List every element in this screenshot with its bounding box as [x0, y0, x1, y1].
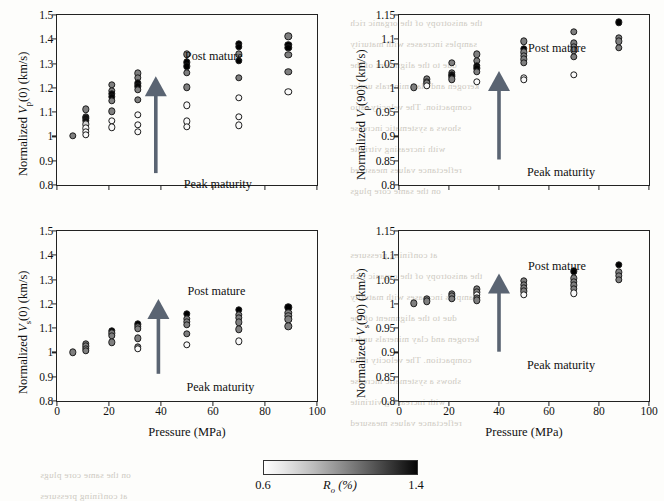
- plot-area-bottom-left: 0.80.911.11.21.31.41.5020406080100Post m…: [56, 230, 318, 402]
- y-axis-label-bottom-left: Normalized Vs(0) (km/s): [16, 271, 33, 394]
- x-tick-mark: [316, 185, 317, 190]
- x-tick-mark: [548, 185, 549, 190]
- x-axis-label-bottom-right: Pressure (MPa): [485, 425, 562, 440]
- maturity-arrow-icon: [399, 15, 649, 185]
- annotation-peak-maturity: Peak maturity: [527, 358, 595, 373]
- plot-area-top-right: 0.80.850.90.9511.051.11.15Post maturePea…: [398, 14, 650, 186]
- panel-bottom-left: 0.80.911.11.21.31.41.5020406080100Post m…: [0, 222, 332, 444]
- x-tick-label: 0: [396, 401, 402, 417]
- y-axis-label-top-right: Normalized Vp(90) (km/s): [354, 49, 371, 180]
- x-tick-mark: [448, 185, 449, 190]
- plot-area-top-left: 0.80.911.11.21.31.41.5Post maturePeak ma…: [56, 14, 318, 186]
- x-tick-label: 20: [103, 401, 115, 417]
- annotation-peak-maturity: Peak maturity: [186, 380, 254, 395]
- x-tick-label: 100: [308, 401, 325, 417]
- bleed-text-line: on the same core plugs: [40, 470, 131, 480]
- panel-top-left: 0.80.911.11.21.31.41.5Post maturePeak ma…: [0, 0, 332, 222]
- x-tick-mark: [648, 185, 649, 190]
- x-tick-mark: [56, 185, 57, 190]
- maturity-arrow-icon: [399, 231, 649, 401]
- panel-bottom-right: 0.80.850.90.9511.051.11.15020406080100Po…: [332, 222, 664, 444]
- maturity-arrow-icon: [57, 15, 317, 185]
- y-axis-label-top-left: Normalized Vp(0) (km/s): [16, 52, 33, 176]
- x-tick-mark: [498, 185, 499, 190]
- annotation-peak-maturity: Peak maturity: [184, 177, 252, 192]
- x-tick-label: 60: [207, 401, 219, 417]
- colorbar-legend: 0.6 Ro (%) 1.4: [240, 456, 440, 498]
- x-tick-mark: [598, 185, 599, 190]
- colorbar-gradient: [263, 460, 418, 475]
- plot-area-bottom-right: 0.80.850.90.9511.051.11.15020406080100Po…: [398, 230, 650, 402]
- x-tick-mark: [264, 185, 265, 190]
- x-tick-label: 20: [443, 401, 455, 417]
- annotation-peak-maturity: Peak maturity: [527, 165, 595, 180]
- x-tick-label: 80: [259, 401, 271, 417]
- x-tick-mark: [398, 185, 399, 190]
- annotation-post-mature: Post mature: [185, 49, 243, 64]
- annotation-post-mature: Post mature: [187, 284, 245, 299]
- colorbar-min-label: 0.6: [255, 478, 271, 493]
- x-axis-label-bottom-left: Pressure (MPa): [148, 425, 225, 440]
- x-tick-label: 100: [640, 401, 657, 417]
- bleed-text-line: at confining pressures: [40, 491, 127, 501]
- maturity-arrow-icon: [57, 231, 317, 401]
- annotation-post-mature: Post mature: [528, 259, 586, 274]
- x-tick-mark: [108, 185, 109, 190]
- x-tick-label: 0: [54, 401, 60, 417]
- x-tick-mark: [160, 185, 161, 190]
- colorbar-max-label: 1.4: [408, 478, 424, 493]
- x-tick-label: 80: [593, 401, 605, 417]
- y-axis-label-bottom-right: Normalized Vs(90) (km/s): [354, 268, 371, 398]
- x-tick-label: 40: [155, 401, 167, 417]
- x-tick-label: 40: [493, 401, 505, 417]
- panel-top-right: 0.80.850.90.9511.051.11.15Post maturePea…: [332, 0, 664, 222]
- colorbar-axis-label: Ro (%): [323, 478, 357, 495]
- x-tick-label: 60: [543, 401, 555, 417]
- annotation-post-mature: Post mature: [528, 41, 586, 56]
